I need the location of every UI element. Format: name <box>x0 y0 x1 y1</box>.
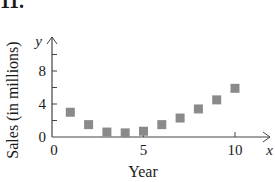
scatter-plot: 0480510yx <box>0 0 275 182</box>
data-point <box>194 104 203 113</box>
x-tick-label: 10 <box>228 142 243 158</box>
y-tick-label: 0 <box>39 129 47 145</box>
data-point <box>231 84 240 93</box>
ticks <box>52 55 235 138</box>
data-point <box>176 114 185 123</box>
data-point <box>121 128 130 137</box>
y-tick-label: 8 <box>39 63 47 79</box>
data-point <box>139 127 148 136</box>
y-variable-label: y <box>33 33 42 49</box>
x-tick-label: 5 <box>140 142 148 158</box>
y-tick-label: 4 <box>39 96 47 112</box>
tick-labels: 0480510yx <box>33 33 273 158</box>
data-point <box>66 108 75 117</box>
data-point <box>102 128 111 137</box>
data-point <box>212 95 221 104</box>
x-variable-label: x <box>265 142 273 158</box>
x-tick-label: 0 <box>50 142 58 158</box>
data-points <box>66 84 240 138</box>
data-point <box>84 120 93 129</box>
data-point <box>157 120 166 129</box>
